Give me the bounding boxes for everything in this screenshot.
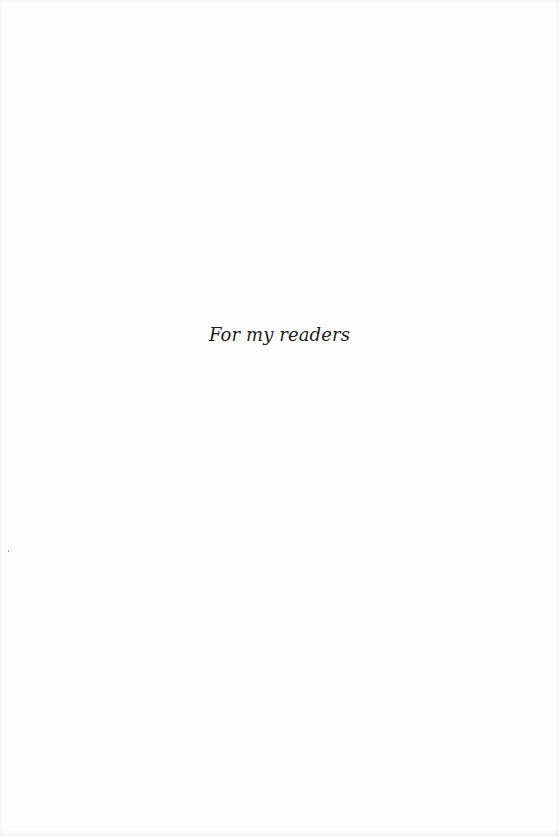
book-page: For my readers	[0, 0, 559, 836]
scan-speck	[8, 550, 9, 552]
dedication-text: For my readers	[0, 324, 559, 345]
